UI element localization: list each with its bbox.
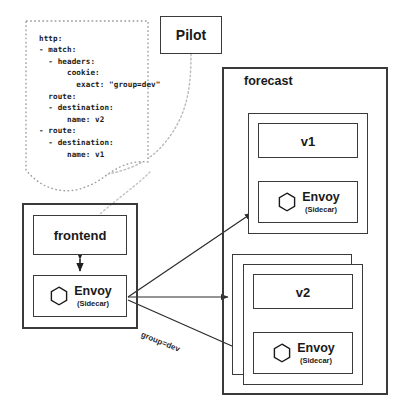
diagram-canvas: http: - match: - headers: cookie: exact:… xyxy=(0,0,407,417)
pilot-box[interactable]: Pilot xyxy=(160,16,222,54)
config-callout: http: - match: - headers: cookie: exact:… xyxy=(25,19,149,189)
v1-envoy-sublabel: (Sidecar) xyxy=(302,206,340,214)
frontend-app-label: frontend xyxy=(34,228,126,243)
v2-app-label: v2 xyxy=(254,284,352,299)
v2-app-container[interactable]: v2 xyxy=(253,274,353,309)
forecast-title: forecast xyxy=(244,74,293,88)
v1-app-label: v1 xyxy=(259,133,357,148)
hexagon-icon xyxy=(273,343,291,363)
v2-envoy-label: Envoy xyxy=(297,342,335,355)
frontend-envoy-container[interactable]: Envoy (Sidecar) xyxy=(33,275,127,317)
config-yaml-text: http: - match: - headers: cookie: exact:… xyxy=(39,33,159,161)
hexagon-icon xyxy=(50,286,68,306)
pilot-label: Pilot xyxy=(161,27,221,43)
v1-app-container[interactable]: v1 xyxy=(258,123,358,158)
v2-envoy-container[interactable]: Envoy (Sidecar) xyxy=(253,332,353,374)
v1-envoy-container[interactable]: Envoy (Sidecar) xyxy=(258,181,358,223)
frontend-app-container[interactable]: frontend xyxy=(33,215,127,255)
frontend-envoy-label: Envoy xyxy=(74,285,112,298)
frontend-envoy-sublabel: (Sidecar) xyxy=(74,300,112,308)
v1-envoy-label: Envoy xyxy=(302,191,340,204)
v2-envoy-sublabel: (Sidecar) xyxy=(297,357,335,365)
hexagon-icon xyxy=(278,192,296,212)
